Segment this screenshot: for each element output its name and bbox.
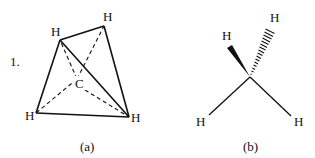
- tetrahedron-edges: [36, 26, 129, 117]
- atom-h-top-right: H: [103, 9, 112, 24]
- figure-number: 1.: [10, 54, 20, 69]
- atom-c: C: [75, 76, 84, 91]
- methane-figure: 1. C H H H H (a): [0, 0, 315, 158]
- atom-h-hash: H: [270, 10, 279, 25]
- atom-h-bottom-left: H: [25, 108, 34, 123]
- caption-a: (a): [80, 139, 94, 154]
- atom-h-bottom-left: H: [196, 114, 205, 129]
- atom-h-bottom-right: H: [294, 114, 303, 129]
- panel-b-wedge-dash: H H H H (b): [196, 10, 303, 154]
- atom-h-wedge: H: [222, 28, 231, 43]
- atom-h-bottom-right: H: [131, 110, 140, 125]
- atom-h-top-left: H: [51, 24, 60, 39]
- panel-a-tetrahedron: C H H H H (a): [25, 9, 140, 154]
- hash-bond: [251, 29, 275, 75]
- plain-bonds: [209, 77, 291, 116]
- wedge-bond: [227, 45, 250, 77]
- caption-b: (b): [243, 139, 258, 154]
